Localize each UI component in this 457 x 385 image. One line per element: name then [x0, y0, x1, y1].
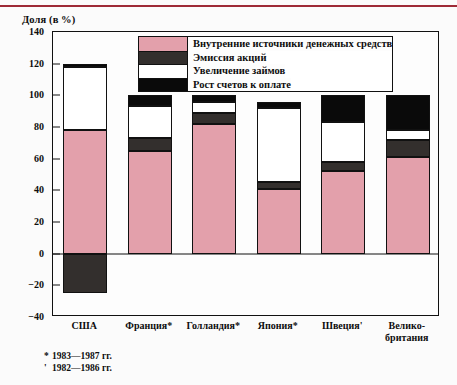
- bar-segment-internal[interactable]: [386, 157, 430, 254]
- bar-segment-loans[interactable]: [257, 108, 301, 182]
- legend-item: Эмиссия акций: [139, 51, 392, 65]
- x-axis-label: Велико- британия: [375, 320, 440, 343]
- y-axis-tick-label: −20: [28, 280, 53, 290]
- bar-segment-negative[interactable]: [63, 254, 107, 294]
- legend-label: Рост счетов к оплате: [188, 78, 291, 92]
- y-axis-tick-label: 0: [39, 249, 53, 259]
- y-axis-tick-label: 100: [29, 90, 53, 100]
- bar-segment-loans[interactable]: [321, 122, 365, 162]
- legend-swatch-loans: [139, 64, 188, 78]
- bar-segment-loans[interactable]: [128, 106, 172, 138]
- footnote-row: '1982—1986 гг.: [44, 362, 112, 374]
- bar-column[interactable]: [63, 32, 107, 317]
- bar-segment-shares[interactable]: [128, 138, 172, 151]
- y-axis-tick-label: 40: [34, 185, 53, 195]
- bar-segment-shares[interactable]: [321, 162, 365, 172]
- y-axis-tick-label: 140: [29, 27, 53, 37]
- bar-segment-payables[interactable]: [128, 95, 172, 106]
- chart-footnotes: *1983—1987 гг.'1982—1986 гг.: [44, 350, 112, 374]
- bar-segment-shares[interactable]: [386, 140, 430, 157]
- y-axis-tick-label: 20: [34, 217, 53, 227]
- legend-label: Увеличение займов: [188, 64, 285, 78]
- legend-swatch-shares: [139, 51, 188, 65]
- x-axis-label: Голландия*: [181, 320, 246, 332]
- y-axis-title: Доля (в %): [22, 14, 75, 25]
- legend-swatch-internal: [139, 37, 188, 51]
- bar-segment-internal[interactable]: [128, 151, 172, 254]
- footnote-marker: ': [44, 362, 52, 374]
- bar-segment-shares[interactable]: [192, 113, 236, 124]
- footnote-text: 1983—1987 гг.: [52, 351, 112, 361]
- legend-item: Внутренние источники денежных средств: [139, 37, 392, 51]
- legend-item: Увеличение займов: [139, 64, 392, 78]
- footnote-marker: *: [44, 350, 52, 362]
- bar-segment-internal[interactable]: [63, 130, 107, 254]
- bar-segment-payables[interactable]: [257, 102, 301, 108]
- footnote-row: *1983—1987 гг.: [44, 350, 112, 362]
- legend-item: Рост счетов к оплате: [139, 78, 392, 92]
- chart-legend: Внутренние источники денежных средствЭми…: [138, 36, 393, 92]
- bar-segment-payables[interactable]: [192, 95, 236, 101]
- bar-segment-loans[interactable]: [192, 102, 236, 113]
- bar-segment-loans[interactable]: [63, 67, 107, 130]
- bar-segment-payables[interactable]: [321, 95, 365, 122]
- top-divider-rule: [0, 5, 457, 7]
- x-axis-label: США: [52, 320, 117, 332]
- x-axis-label: Швеция': [310, 320, 375, 332]
- y-axis-tick-label: 120: [29, 59, 53, 69]
- bar-segment-payables[interactable]: [63, 64, 107, 67]
- bar-segment-payables[interactable]: [386, 95, 430, 130]
- legend-label: Внутренние источники денежных средств: [188, 37, 392, 51]
- x-axis-label: Франция*: [117, 320, 182, 332]
- footnote-text: 1982—1986 гг.: [52, 363, 112, 373]
- y-axis-tick-label: 60: [34, 154, 53, 164]
- bar-segment-internal[interactable]: [257, 189, 301, 254]
- bar-segment-loans[interactable]: [386, 130, 430, 140]
- x-axis-label: Япония*: [246, 320, 311, 332]
- legend-swatch-payables: [139, 78, 188, 92]
- bar-segment-internal[interactable]: [321, 171, 365, 253]
- y-axis-tick-label: −40: [28, 312, 53, 322]
- legend-label: Эмиссия акций: [188, 51, 266, 65]
- bar-segment-internal[interactable]: [192, 124, 236, 254]
- bar-segment-shares[interactable]: [257, 182, 301, 188]
- y-axis-tick-label: 80: [34, 122, 53, 132]
